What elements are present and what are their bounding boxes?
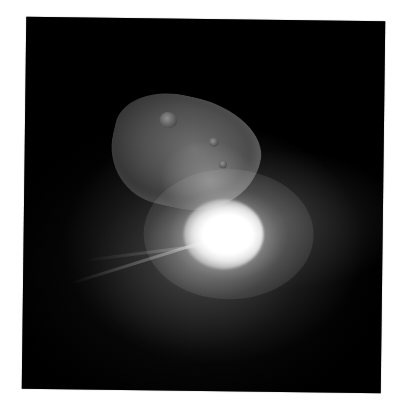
- crater: [208, 137, 220, 148]
- crater: [158, 110, 179, 130]
- comet-impact-photo: [22, 17, 386, 393]
- page: [0, 0, 405, 416]
- crater: [218, 159, 228, 169]
- impact-flash: [183, 199, 264, 270]
